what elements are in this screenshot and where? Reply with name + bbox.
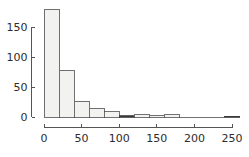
histogram-bar <box>134 115 149 117</box>
y-tick-marks <box>32 27 36 117</box>
y-tick-label: 150 <box>7 21 28 34</box>
bars-group <box>44 9 240 117</box>
x-tick-label: 250 <box>222 132 243 145</box>
histogram-bar <box>224 116 239 117</box>
y-tick-label: 100 <box>7 51 28 64</box>
y-tick-label: 50 <box>14 81 28 94</box>
histogram-bar <box>44 9 59 117</box>
histogram-bar <box>89 108 104 117</box>
histogram-bar <box>104 112 119 117</box>
x-tick-label: 50 <box>75 132 89 145</box>
histogram-bar <box>59 70 74 117</box>
histogram-plot: 050100150 050100150200250 <box>0 0 249 157</box>
histogram-bar <box>74 101 89 117</box>
x-tick-label: 150 <box>146 132 167 145</box>
histogram-bar <box>149 115 164 117</box>
histogram-figure: 050100150 050100150200250 <box>0 0 249 157</box>
histogram-bar <box>164 115 179 117</box>
x-tick-marks <box>44 124 232 128</box>
x-axis: 050100150200250 <box>41 124 243 145</box>
y-tick-labels: 050100150 <box>7 21 28 124</box>
y-tick-label: 0 <box>21 111 28 124</box>
y-axis: 050100150 <box>7 21 36 124</box>
x-tick-label: 0 <box>41 132 48 145</box>
x-tick-label: 100 <box>109 132 130 145</box>
x-tick-labels: 050100150200250 <box>41 132 243 145</box>
x-tick-label: 200 <box>184 132 205 145</box>
histogram-bar <box>119 116 134 117</box>
